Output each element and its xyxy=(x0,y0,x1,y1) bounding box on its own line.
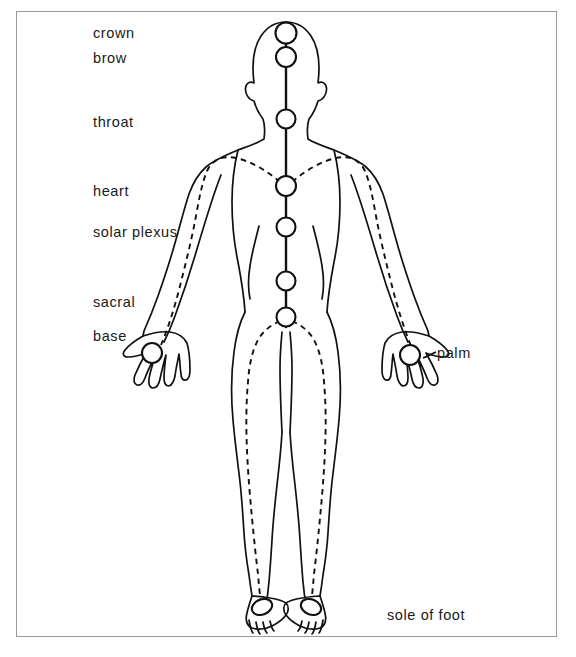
label-solar-plexus: solar plexus xyxy=(93,225,178,240)
left-knee-path xyxy=(234,424,254,430)
label-sacral: sacral xyxy=(93,295,135,310)
chakra-solar-plexus-circle[interactable] xyxy=(277,218,296,237)
chakra-sacral-circle[interactable] xyxy=(277,272,296,291)
chest-contour-left-path xyxy=(249,226,260,299)
left-arm-inner-path xyxy=(164,175,221,342)
label-sole-of-foot: sole of foot xyxy=(387,608,465,623)
chakra-heart-circle[interactable] xyxy=(276,176,296,196)
crotch-right-path xyxy=(290,332,292,432)
torso-right-side-path xyxy=(327,150,340,312)
chest-contour-right-path xyxy=(313,226,324,299)
right-leg-outer-path xyxy=(320,312,340,596)
label-base: base xyxy=(93,329,127,344)
right-palm-circle[interactable] xyxy=(400,345,420,365)
chakra-throat-circle[interactable] xyxy=(277,110,296,129)
energy-path-right-arm xyxy=(292,157,411,346)
chakra-crown-circle[interactable] xyxy=(276,23,297,44)
figure-root: crown brow throat heart solar plexus sac… xyxy=(0,0,576,657)
label-heart: heart xyxy=(93,184,129,199)
crotch-left-path xyxy=(280,332,282,432)
left-leg-outer-path xyxy=(232,312,252,596)
right-leg-inner-path xyxy=(290,432,305,598)
right-sole-ellipse[interactable] xyxy=(298,596,323,618)
torso-left-side-path xyxy=(232,150,245,312)
left-sole-ellipse[interactable] xyxy=(249,596,274,618)
label-throat: throat xyxy=(93,115,134,130)
label-crown: crown xyxy=(93,26,135,41)
left-leg-inner-path xyxy=(267,432,282,598)
body-diagram-svg xyxy=(0,0,576,657)
body-outline-path xyxy=(143,22,286,336)
left-palm-circle[interactable] xyxy=(142,343,162,363)
chakra-brow-circle[interactable] xyxy=(276,47,296,67)
chakra-base-circle[interactable] xyxy=(277,308,296,327)
energy-path-right-leg xyxy=(292,321,326,603)
energy-path-left-leg xyxy=(246,321,280,603)
body-outline-path-right xyxy=(286,22,429,336)
label-brow: brow xyxy=(93,51,127,66)
label-palm: palm xyxy=(437,346,471,361)
energy-path-left-arm xyxy=(161,157,280,345)
right-arm-inner-path xyxy=(351,175,408,342)
